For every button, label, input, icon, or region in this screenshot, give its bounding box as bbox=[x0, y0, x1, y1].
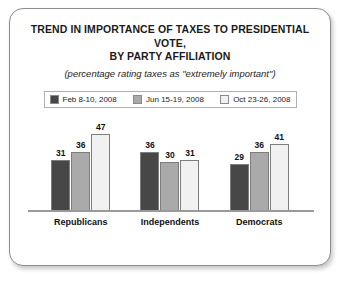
legend-swatch-icon-1 bbox=[133, 95, 142, 104]
legend-swatch-icon-2 bbox=[220, 95, 229, 104]
bar-group-2: 293641 bbox=[230, 133, 289, 212]
bar-value-label: 31 bbox=[56, 149, 65, 158]
legend-label-2: Oct 23-26, 2008 bbox=[233, 95, 290, 104]
bar[interactable] bbox=[250, 152, 269, 212]
category-label-2: Democrats bbox=[228, 217, 290, 227]
category-label-1: Independents bbox=[139, 217, 201, 227]
bar-value-label: 47 bbox=[96, 123, 105, 132]
bar-wrapper: 30 bbox=[160, 151, 179, 212]
bar-value-label: 30 bbox=[165, 151, 174, 160]
bar[interactable] bbox=[230, 164, 249, 212]
bar-wrapper: 36 bbox=[250, 141, 269, 212]
bar[interactable] bbox=[180, 160, 199, 212]
legend-label-1: Jun 15-19, 2008 bbox=[146, 95, 204, 104]
bar-wrapper: 47 bbox=[91, 123, 110, 212]
bar-groups: 313647363031293641 bbox=[36, 120, 304, 212]
plot-area: 313647363031293641 bbox=[36, 120, 304, 212]
category-label-0: Republicans bbox=[50, 217, 112, 227]
category-labels: RepublicansIndependentsDemocrats bbox=[36, 217, 304, 227]
legend-label-0: Feb 8-10, 2008 bbox=[63, 95, 117, 104]
bar[interactable] bbox=[160, 162, 179, 212]
x-axis-line bbox=[28, 210, 314, 212]
legend-item-0[interactable]: Feb 8-10, 2008 bbox=[50, 95, 117, 104]
chart-title-line-1: TREND IN IMPORTANCE OF TAXES TO PRESIDEN… bbox=[22, 23, 318, 50]
bar[interactable] bbox=[91, 134, 110, 212]
legend-swatch-icon-0 bbox=[50, 95, 59, 104]
bar-value-label: 36 bbox=[145, 141, 154, 150]
bar-wrapper: 36 bbox=[71, 141, 90, 212]
bar-value-label: 41 bbox=[275, 133, 284, 142]
bar[interactable] bbox=[140, 152, 159, 212]
bar-value-label: 29 bbox=[235, 153, 244, 162]
bar-group-1: 363031 bbox=[140, 141, 199, 212]
legend-item-1[interactable]: Jun 15-19, 2008 bbox=[133, 95, 204, 104]
bar-wrapper: 31 bbox=[51, 149, 70, 212]
chart-legend: Feb 8-10, 2008 Jun 15-19, 2008 Oct 23-26… bbox=[44, 91, 297, 108]
bar-wrapper: 36 bbox=[140, 141, 159, 212]
bar-value-label: 36 bbox=[76, 141, 85, 150]
bar-wrapper: 31 bbox=[180, 149, 199, 212]
bar[interactable] bbox=[270, 144, 289, 212]
bar-wrapper: 29 bbox=[230, 153, 249, 212]
bar[interactable] bbox=[51, 160, 70, 212]
bar-wrapper: 41 bbox=[270, 133, 289, 212]
chart-card: TREND IN IMPORTANCE OF TAXES TO PRESIDEN… bbox=[9, 8, 331, 266]
bar-value-label: 31 bbox=[185, 149, 194, 158]
chart-title-line-2: BY PARTY AFFILIATION bbox=[22, 50, 318, 64]
bar-value-label: 36 bbox=[255, 141, 264, 150]
chart-subtitle: (percentage rating taxes as "extremely i… bbox=[22, 68, 318, 80]
bar-group-0: 313647 bbox=[51, 123, 110, 212]
chart-titles: TREND IN IMPORTANCE OF TAXES TO PRESIDEN… bbox=[10, 23, 330, 80]
bar[interactable] bbox=[71, 152, 90, 212]
legend-item-2[interactable]: Oct 23-26, 2008 bbox=[220, 95, 290, 104]
